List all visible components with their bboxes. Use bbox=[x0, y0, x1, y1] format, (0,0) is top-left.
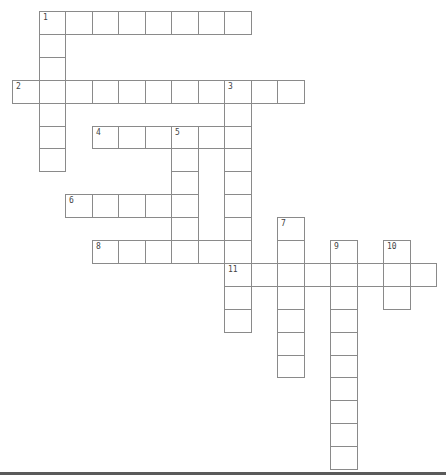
letter-input[interactable] bbox=[331, 401, 357, 423]
letter-input[interactable] bbox=[331, 424, 357, 446]
letter-input[interactable] bbox=[40, 12, 65, 34]
letter-input[interactable] bbox=[411, 264, 436, 286]
grid-cell[interactable] bbox=[277, 309, 305, 333]
grid-cell[interactable] bbox=[39, 57, 66, 81]
grid-cell[interactable]: 8 bbox=[92, 240, 119, 264]
letter-input[interactable] bbox=[172, 127, 198, 148]
letter-input[interactable] bbox=[225, 12, 251, 34]
grid-cell[interactable] bbox=[410, 263, 437, 287]
letter-input[interactable] bbox=[93, 12, 118, 34]
grid-cell[interactable] bbox=[224, 11, 252, 35]
grid-cell[interactable] bbox=[330, 263, 358, 287]
letter-input[interactable] bbox=[66, 81, 92, 103]
letter-input[interactable] bbox=[252, 264, 277, 286]
letter-input[interactable] bbox=[225, 81, 251, 103]
grid-cell[interactable]: 10 bbox=[383, 240, 411, 264]
grid-cell[interactable] bbox=[171, 171, 199, 195]
grid-cell[interactable]: 11 bbox=[224, 263, 252, 287]
letter-input[interactable] bbox=[384, 264, 410, 286]
letter-input[interactable] bbox=[384, 241, 410, 263]
grid-cell[interactable] bbox=[383, 286, 411, 310]
grid-cell[interactable] bbox=[92, 194, 119, 218]
grid-cell[interactable] bbox=[198, 80, 225, 104]
letter-input[interactable] bbox=[225, 172, 251, 194]
grid-cell[interactable] bbox=[383, 263, 411, 287]
letter-input[interactable] bbox=[331, 447, 357, 469]
grid-cell[interactable] bbox=[277, 332, 305, 356]
grid-cell[interactable] bbox=[92, 80, 119, 104]
grid-cell[interactable] bbox=[330, 423, 358, 447]
letter-input[interactable] bbox=[225, 195, 251, 217]
letter-input[interactable] bbox=[278, 287, 304, 309]
letter-input[interactable] bbox=[199, 241, 224, 263]
letter-input[interactable] bbox=[119, 241, 145, 263]
letter-input[interactable] bbox=[172, 81, 198, 103]
grid-cell[interactable] bbox=[171, 217, 199, 241]
grid-cell[interactable] bbox=[330, 332, 358, 356]
letter-input[interactable] bbox=[40, 81, 65, 103]
grid-cell[interactable] bbox=[65, 80, 93, 104]
letter-input[interactable] bbox=[40, 58, 65, 80]
letter-input[interactable] bbox=[172, 149, 198, 171]
grid-cell[interactable] bbox=[277, 263, 305, 287]
letter-input[interactable] bbox=[278, 356, 304, 377]
grid-cell[interactable] bbox=[118, 80, 146, 104]
grid-cell[interactable] bbox=[39, 34, 66, 58]
grid-cell[interactable] bbox=[304, 263, 331, 287]
grid-cell[interactable] bbox=[118, 126, 146, 149]
letter-input[interactable] bbox=[199, 81, 224, 103]
letter-input[interactable] bbox=[199, 127, 224, 148]
grid-cell[interactable] bbox=[145, 11, 172, 35]
grid-cell[interactable] bbox=[251, 263, 278, 287]
letter-input[interactable] bbox=[172, 172, 198, 194]
grid-cell[interactable] bbox=[145, 126, 172, 149]
letter-input[interactable] bbox=[225, 149, 251, 171]
letter-input[interactable] bbox=[225, 264, 251, 286]
grid-cell[interactable] bbox=[39, 103, 66, 127]
grid-cell[interactable] bbox=[171, 148, 199, 172]
letter-input[interactable] bbox=[305, 264, 330, 286]
letter-input[interactable] bbox=[278, 310, 304, 332]
grid-cell[interactable] bbox=[224, 309, 252, 333]
grid-cell[interactable] bbox=[224, 194, 252, 218]
grid-cell[interactable] bbox=[224, 171, 252, 195]
grid-cell[interactable] bbox=[224, 148, 252, 172]
grid-cell[interactable] bbox=[171, 80, 199, 104]
grid-cell[interactable] bbox=[277, 240, 305, 264]
grid-cell[interactable]: 2 bbox=[12, 80, 40, 104]
letter-input[interactable] bbox=[40, 127, 65, 148]
letter-input[interactable] bbox=[172, 218, 198, 240]
grid-cell[interactable] bbox=[224, 103, 252, 127]
letter-input[interactable] bbox=[225, 104, 251, 126]
letter-input[interactable] bbox=[225, 310, 251, 332]
grid-cell[interactable]: 7 bbox=[277, 217, 305, 241]
grid-cell[interactable] bbox=[118, 240, 146, 264]
grid-cell[interactable] bbox=[65, 11, 93, 35]
grid-cell[interactable] bbox=[277, 286, 305, 310]
grid-cell[interactable] bbox=[198, 126, 225, 149]
letter-input[interactable] bbox=[331, 241, 357, 263]
grid-cell[interactable]: 6 bbox=[65, 194, 93, 218]
grid-cell[interactable] bbox=[145, 240, 172, 264]
grid-cell[interactable] bbox=[39, 126, 66, 149]
letter-input[interactable] bbox=[172, 241, 198, 263]
letter-input[interactable] bbox=[331, 310, 357, 332]
letter-input[interactable] bbox=[331, 264, 357, 286]
letter-input[interactable] bbox=[331, 356, 357, 377]
grid-cell[interactable] bbox=[277, 80, 305, 104]
letter-input[interactable] bbox=[93, 127, 118, 148]
letter-input[interactable] bbox=[252, 81, 277, 103]
letter-input[interactable] bbox=[278, 81, 304, 103]
letter-input[interactable] bbox=[146, 195, 171, 217]
letter-input[interactable] bbox=[384, 287, 410, 309]
letter-input[interactable] bbox=[278, 218, 304, 240]
letter-input[interactable] bbox=[119, 195, 145, 217]
grid-cell[interactable] bbox=[39, 148, 66, 172]
letter-input[interactable] bbox=[119, 127, 145, 148]
letter-input[interactable] bbox=[225, 127, 251, 148]
grid-cell[interactable] bbox=[198, 240, 225, 264]
grid-cell[interactable] bbox=[357, 263, 384, 287]
letter-input[interactable] bbox=[172, 195, 198, 217]
letter-input[interactable] bbox=[93, 241, 118, 263]
letter-input[interactable] bbox=[225, 218, 251, 240]
